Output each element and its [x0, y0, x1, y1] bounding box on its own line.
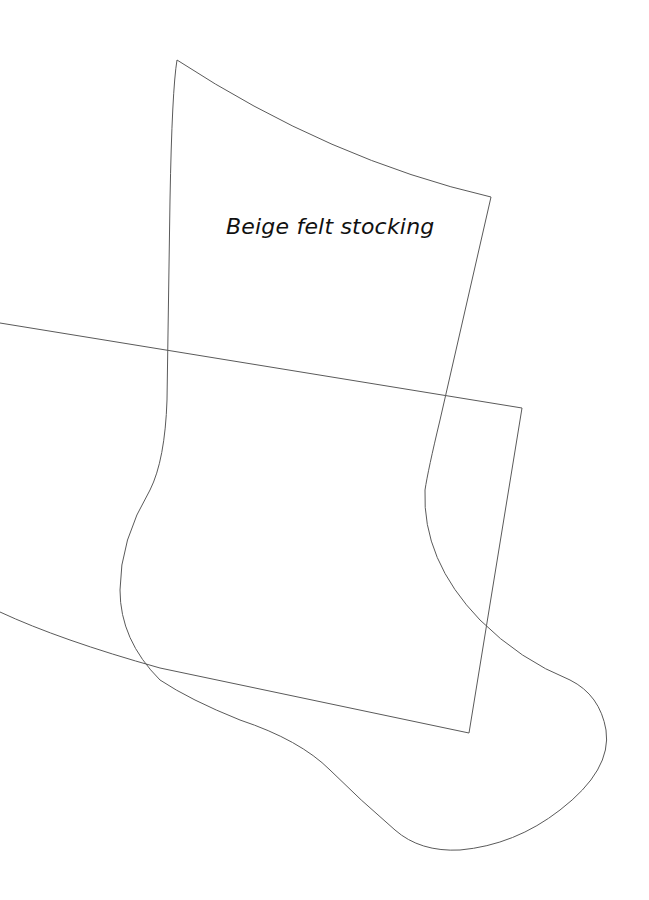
cuff-rectangle	[0, 323, 522, 733]
stocking-outline	[120, 60, 607, 850]
pattern-label: Beige felt stocking	[226, 214, 434, 239]
pattern-canvas	[0, 0, 649, 900]
